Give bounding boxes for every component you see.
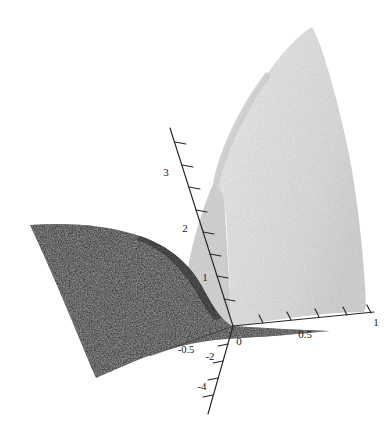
plot-canvas: 3 2 1 0 -2 -4 0.5 1 -0.5 xyxy=(0,0,390,422)
z-tick-label-0: 0 xyxy=(236,335,242,347)
z-tick-label-3: 3 xyxy=(163,166,169,178)
z-tick-label-1: 1 xyxy=(202,271,208,283)
surface-plot-figure: 3 2 1 0 -2 -4 0.5 1 -0.5 xyxy=(0,0,390,422)
x-tick-label-1: 1 xyxy=(373,316,379,328)
z-tick-label-neg2: -2 xyxy=(205,350,214,362)
y-tick-label-neg0point5: -0.5 xyxy=(178,344,195,355)
z-tick-label-2: 2 xyxy=(182,222,188,234)
x-tick-label-0point5: 0.5 xyxy=(298,328,312,340)
z-tick-label-neg4: -4 xyxy=(197,380,207,392)
